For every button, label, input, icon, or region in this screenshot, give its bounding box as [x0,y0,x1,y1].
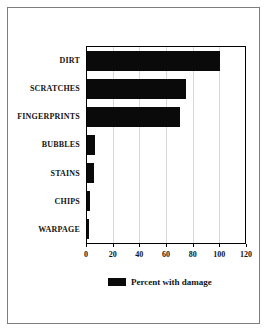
category-label: SCRATCHES [8,74,80,102]
category-label: BUBBLES [8,131,80,159]
tick-label: 100 [207,250,231,259]
tick-label: 40 [127,250,151,259]
tick-mark [166,244,167,247]
tick-mark [193,244,194,247]
bar-fingerprints [87,107,180,127]
legend-label: Percent with damage [131,277,212,287]
category-axis: DIRTSCRATCHESFINGERPRINTSBUBBLESSTAINSCH… [8,46,80,244]
tick-mark [246,244,247,247]
bar-stains [87,163,94,183]
bar-row [87,187,245,215]
tick-mark [86,244,87,247]
bar-scratches [87,79,186,99]
bar-dirt [87,51,220,71]
tick-label: 60 [154,250,178,259]
bar-warpage [87,219,89,239]
bar-series [87,47,245,243]
bar-row [87,47,245,75]
category-label: WARPAGE [8,216,80,244]
category-label: STAINS [8,159,80,187]
bar-row [87,159,245,187]
legend: Percent with damage [108,277,212,287]
bar-bubbles [87,135,95,155]
category-label: FINGERPRINTS [8,103,80,131]
tick-mark [139,244,140,247]
tick-label: 80 [181,250,205,259]
bar-row [87,75,245,103]
bar-row [87,103,245,131]
category-label: CHIPS [8,187,80,215]
bar-row [87,131,245,159]
category-label: DIRT [8,46,80,74]
bar-chips [87,191,90,211]
tick-label: 20 [101,250,125,259]
tick-label: 120 [234,250,258,259]
legend-swatch-icon [108,278,126,286]
tick-mark [113,244,114,247]
tick-label: 0 [74,250,98,259]
chart-frame: DIRTSCRATCHESFINGERPRINTSBUBBLESSTAINSCH… [7,7,260,324]
plot-area [86,46,246,244]
chart-figure: DIRTSCRATCHESFINGERPRINTSBUBBLESSTAINSCH… [0,0,265,333]
bar-row [87,215,245,243]
tick-mark [219,244,220,247]
